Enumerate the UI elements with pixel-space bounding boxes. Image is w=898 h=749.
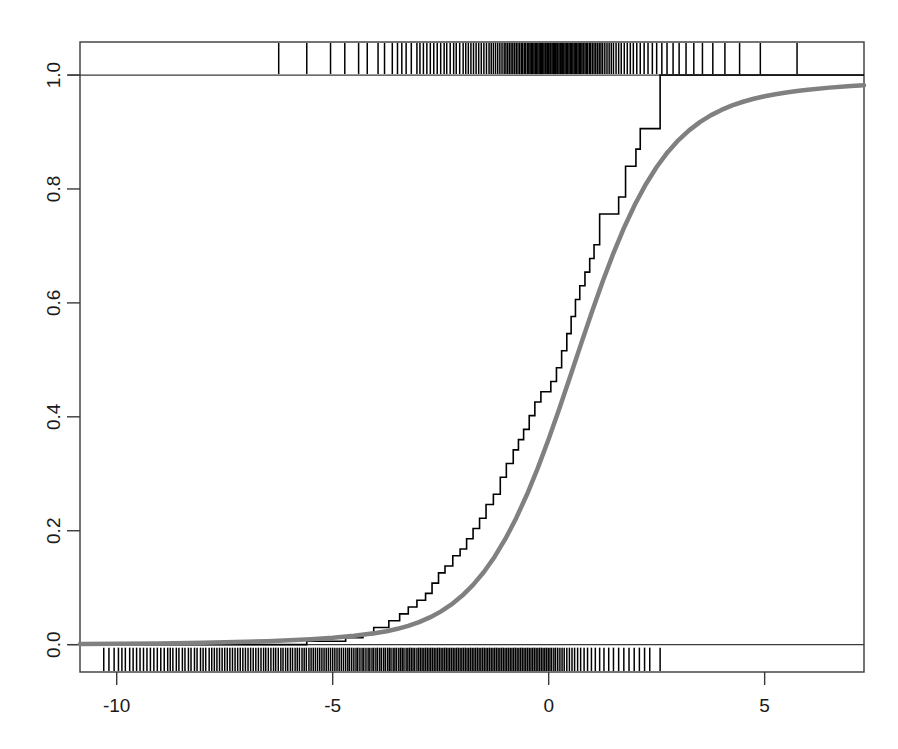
y-tick-label: 0.2 <box>44 518 65 544</box>
y-tick-label: 0.8 <box>44 176 65 202</box>
x-tick-label: 5 <box>759 695 770 716</box>
plot-canvas: -10-505 0.00.20.40.60.81.0 <box>0 0 898 749</box>
x-tick-label: -5 <box>324 695 341 716</box>
figure-background <box>0 0 898 749</box>
x-tick-label: -10 <box>103 695 130 716</box>
y-tick-label: 0.6 <box>44 290 65 316</box>
y-tick-label: 1.0 <box>44 62 65 88</box>
x-tick-label: 0 <box>543 695 554 716</box>
ecdf-figure: -10-505 0.00.20.40.60.81.0 <box>0 0 898 749</box>
y-tick-label: 0.4 <box>44 403 65 430</box>
y-tick-label: 0.0 <box>44 631 65 657</box>
